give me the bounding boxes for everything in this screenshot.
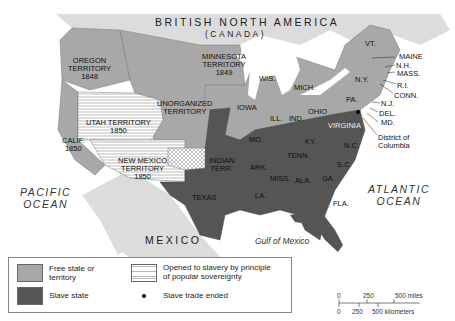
state-pa: PA. [346, 96, 358, 104]
state-ny: N.Y. [355, 76, 369, 84]
state-ga: GA. [322, 175, 335, 183]
state-mich: MICH. [294, 84, 315, 92]
legend-dot-icon [142, 294, 146, 298]
legend-popular-swatch [131, 264, 157, 282]
state-ark: ARK. [250, 164, 268, 172]
state-conn: CONN. [394, 92, 418, 100]
state-ind: IND. [289, 115, 304, 123]
canada-sub-label: (CANADA) [205, 30, 266, 38]
legend-slave-swatch [17, 287, 43, 305]
state-nj: N.J. [381, 100, 394, 108]
state-md: MD. [381, 119, 395, 127]
state-ohio: OHIO [308, 108, 327, 116]
mexico-label: MEXICO [145, 236, 201, 244]
legend-slave-label: Slave state [49, 291, 89, 300]
atlantic-ocean-label: ATLANTICOCEAN [368, 183, 430, 207]
state-sc: S.C. [337, 161, 352, 169]
indian-terr-label: INDIANTERR. [209, 157, 234, 173]
state-nc: N.C. [344, 142, 359, 150]
state-mo: MO. [249, 136, 263, 144]
scale-km-0: 0 [337, 308, 341, 315]
state-tenn: TENN. [287, 152, 310, 160]
scale-km-250: 250 [352, 308, 363, 315]
state-dc: District ofColumbia [378, 134, 410, 150]
new-mexico-label: NEW MEXICOTERRITORY1850 [118, 157, 167, 181]
state-del: DEL. [379, 110, 396, 118]
legend-trade-label: Slave trade ended [163, 291, 228, 300]
state-virginia: VIRGINIA [328, 122, 361, 130]
pacific-ocean-label: PACIFICOCEAN [20, 186, 71, 210]
state-iowa: IOWA [237, 104, 257, 112]
legend: Free state orterritory Slave state Opene… [8, 257, 292, 313]
scale-miles-500: 500 miles [395, 292, 423, 299]
state-miss: MISS. [270, 175, 290, 183]
state-maine: MAINE [399, 53, 423, 61]
scale-miles-0: 0 [337, 292, 341, 299]
scale-km-500: 500 kilometers [372, 308, 414, 315]
state-ala: ALA. [295, 177, 311, 185]
california-label: CALIF.1850 [62, 137, 85, 153]
state-mass: MASS. [397, 70, 420, 78]
state-ill: ILL. [270, 115, 283, 123]
unorganized-label: UNORGANIZEDTERRITORY [157, 100, 212, 116]
state-la: LA. [255, 192, 266, 200]
legend-free-swatch [17, 264, 43, 282]
indian-territory [168, 148, 205, 170]
state-wis: WIS. [259, 75, 275, 83]
minnesota-label: MINNESOTATERRITORY1849 [202, 53, 246, 77]
state-fla: FLA. [333, 200, 349, 208]
scale-miles-250: 250 [363, 292, 374, 299]
state-texas: TEXAS [192, 194, 217, 202]
gulf-label: Gulf of Mexico [255, 237, 309, 245]
legend-popular-label: Opened to slavery by principleof popular… [163, 263, 271, 281]
utah-label: UTAH TERRITORY1850 [86, 119, 151, 135]
canada-label: BRITISH NORTH AMERICA [155, 18, 339, 26]
state-vt: VT. [365, 40, 376, 48]
oregon-label: OREGONTERRITORY1848 [68, 57, 111, 81]
state-ri: R.I. [397, 82, 409, 90]
legend-free-label: Free state orterritory [49, 264, 94, 282]
dc-marker [356, 110, 360, 114]
state-ky: KY. [305, 138, 316, 146]
